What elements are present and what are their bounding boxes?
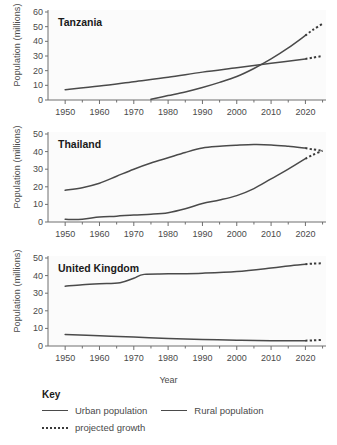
- svg-text:2000: 2000: [227, 229, 247, 239]
- svg-text:0: 0: [38, 95, 43, 105]
- svg-text:2000: 2000: [227, 107, 247, 117]
- svg-text:20: 20: [33, 66, 43, 76]
- chart-panel-thailand: Population (millions) 010203040501950196…: [0, 122, 337, 247]
- svg-text:10: 10: [33, 80, 43, 90]
- svg-text:1990: 1990: [192, 353, 212, 363]
- svg-text:2010: 2010: [261, 353, 281, 363]
- svg-text:20: 20: [33, 306, 43, 316]
- svg-text:1960: 1960: [89, 107, 109, 117]
- svg-text:1990: 1990: [192, 229, 212, 239]
- legend-title: Key: [42, 389, 60, 400]
- svg-text:1970: 1970: [124, 107, 144, 117]
- svg-text:1970: 1970: [124, 229, 144, 239]
- plot-area-tanzania: 0102030405060195019601970198019902000201…: [20, 4, 332, 122]
- svg-text:50: 50: [33, 129, 43, 139]
- legend-label-urban: Urban population: [75, 405, 147, 416]
- svg-text:1960: 1960: [89, 353, 109, 363]
- svg-text:1960: 1960: [89, 229, 109, 239]
- chart-panel-united-kingdom: Population (millions) 010203040501950196…: [0, 246, 337, 371]
- chart-title-united-kingdom: United Kingdom: [58, 262, 139, 274]
- legend-item-rural: Rural population: [161, 405, 263, 416]
- legend-label-projected: projected growth: [75, 422, 145, 433]
- svg-text:1950: 1950: [55, 229, 75, 239]
- legend-swatch-projected-dotted-line: [42, 427, 68, 429]
- svg-text:2020: 2020: [295, 229, 315, 239]
- svg-text:60: 60: [33, 7, 43, 17]
- legend-item-urban: Urban population: [42, 405, 147, 416]
- svg-text:1970: 1970: [124, 353, 144, 363]
- svg-text:30: 30: [33, 164, 43, 174]
- svg-text:30: 30: [33, 288, 43, 298]
- chart-title-thailand: Thailand: [58, 138, 101, 150]
- svg-text:0: 0: [38, 217, 43, 227]
- svg-text:40: 40: [33, 147, 43, 157]
- figure-root: Population (millions) 010203040506019501…: [0, 0, 337, 445]
- legend-row-populations: Urban population Rural population: [42, 405, 278, 416]
- legend-label-rural: Rural population: [194, 405, 263, 416]
- legend-swatch-rural-line: [161, 410, 187, 411]
- svg-text:2000: 2000: [227, 353, 247, 363]
- svg-text:1980: 1980: [158, 353, 178, 363]
- svg-text:0: 0: [38, 341, 43, 351]
- legend-row-projected: projected growth: [42, 422, 159, 433]
- svg-text:2010: 2010: [261, 107, 281, 117]
- svg-text:10: 10: [33, 199, 43, 209]
- svg-text:1950: 1950: [55, 107, 75, 117]
- figure-legend: Year Key Urban population Rural populati…: [0, 375, 337, 445]
- svg-text:2010: 2010: [261, 229, 281, 239]
- svg-text:10: 10: [33, 323, 43, 333]
- svg-text:1990: 1990: [192, 107, 212, 117]
- svg-text:50: 50: [33, 22, 43, 32]
- svg-text:50: 50: [33, 253, 43, 263]
- plot-area-united-kingdom: 0102030405019501960197019801990200020102…: [20, 250, 332, 368]
- svg-text:1980: 1980: [158, 229, 178, 239]
- svg-text:40: 40: [33, 271, 43, 281]
- svg-text:2020: 2020: [295, 353, 315, 363]
- svg-text:40: 40: [33, 36, 43, 46]
- chart-panel-tanzania: Population (millions) 010203040506019501…: [0, 0, 337, 125]
- svg-text:2020: 2020: [295, 107, 315, 117]
- legend-swatch-urban-line: [42, 410, 68, 411]
- svg-text:20: 20: [33, 182, 43, 192]
- chart-title-tanzania: Tanzania: [58, 16, 102, 28]
- svg-text:1980: 1980: [158, 107, 178, 117]
- legend-item-projected: projected growth: [42, 422, 145, 433]
- x-axis-title: Year: [0, 375, 337, 385]
- svg-text:1950: 1950: [55, 353, 75, 363]
- svg-text:30: 30: [33, 51, 43, 61]
- plot-area-thailand: 0102030405019501960197019801990200020102…: [20, 126, 332, 244]
